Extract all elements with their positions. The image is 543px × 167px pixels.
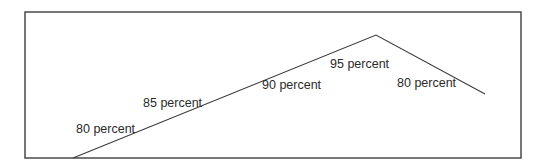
label-80-percent-left: 80 percent [76,122,136,136]
label-90-percent: 90 percent [262,78,322,92]
label-85-percent: 85 percent [143,96,203,110]
label-95-percent: 95 percent [330,57,390,71]
percent-diagram: 80 percent 85 percent 90 percent 95 perc… [0,0,543,167]
label-80-percent-right: 80 percent [397,76,457,90]
trend-line [73,35,485,158]
